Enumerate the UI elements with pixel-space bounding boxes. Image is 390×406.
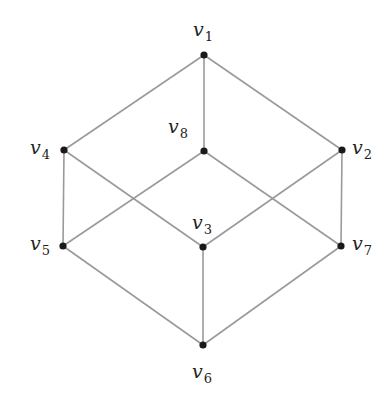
node-v7 [337, 242, 344, 249]
edge-v7-v6 [203, 246, 341, 345]
edge-v1-v2 [204, 55, 342, 150]
label-v1: v1 [193, 20, 213, 43]
label-name: v [352, 136, 363, 158]
graph-diagram [0, 0, 390, 406]
label-name: v [352, 232, 363, 254]
label-subscript: 3 [204, 222, 212, 237]
label-name: v [192, 360, 203, 382]
node-v3 [199, 243, 206, 250]
label-name: v [168, 115, 179, 137]
label-subscript: 6 [204, 371, 212, 386]
node-v5 [59, 242, 66, 249]
label-subscript: 8 [180, 126, 188, 141]
label-v5: v5 [30, 234, 50, 257]
edge-v2-v7 [341, 150, 342, 246]
label-name: v [30, 232, 41, 254]
label-name: v [30, 136, 41, 158]
label-subscript: 7 [364, 243, 372, 258]
node-v1 [200, 51, 207, 58]
edge-v4-v5 [63, 150, 64, 246]
label-subscript: 1 [205, 29, 213, 44]
edges [63, 55, 342, 345]
node-v8 [200, 147, 207, 154]
label-v8: v8 [168, 117, 188, 140]
label-subscript: 4 [42, 147, 50, 162]
label-v3: v3 [192, 213, 212, 236]
label-subscript: 5 [42, 243, 50, 258]
label-subscript: 2 [364, 147, 372, 162]
node-v6 [199, 341, 206, 348]
label-v6: v6 [192, 362, 212, 385]
edge-v5-v6 [63, 246, 203, 345]
edge-v8-v5 [63, 151, 204, 246]
label-v4: v4 [30, 138, 50, 161]
label-v2: v2 [352, 138, 372, 161]
label-v7: v7 [352, 234, 372, 257]
node-v2 [338, 146, 345, 153]
label-name: v [192, 211, 203, 233]
label-name: v [193, 18, 204, 40]
node-v4 [60, 146, 67, 153]
